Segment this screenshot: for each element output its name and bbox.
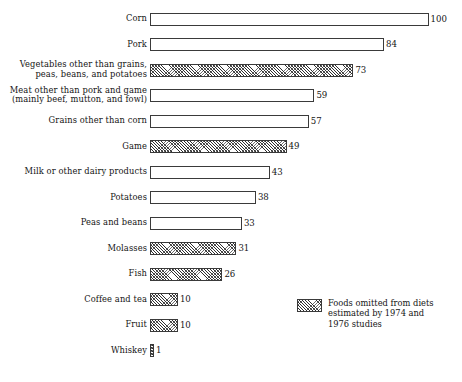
bar-container: 43 xyxy=(150,161,283,183)
bar-container: 31 xyxy=(150,238,249,260)
bar-category-label: Fish xyxy=(0,269,147,279)
bar-value-label: 100 xyxy=(431,13,447,26)
bar-shape xyxy=(150,89,314,102)
bar-value-label: 38 xyxy=(258,191,269,204)
bar-row: Game 49 xyxy=(0,136,462,158)
bar-container: 73 xyxy=(150,59,366,81)
horizontal-bar-chart: Corn 100 Pork 84 Vegetables other than g… xyxy=(0,0,462,382)
bar-container: 100 xyxy=(150,8,447,30)
legend-label: Foods omitted from diets estimated by 19… xyxy=(328,298,434,329)
bar-row: Grains other than corn 57 xyxy=(0,110,462,132)
bar-value-label: 59 xyxy=(316,89,327,102)
bar-container: 57 xyxy=(150,110,322,132)
bar-shape-omitted xyxy=(150,140,287,153)
bar-row: Pork 84 xyxy=(0,34,462,56)
bar-shape xyxy=(150,217,242,230)
bar-shape-omitted xyxy=(150,242,236,255)
bar-container: 59 xyxy=(150,85,327,107)
bar-value-label: 1 xyxy=(156,344,161,357)
bar-container: 10 xyxy=(150,314,191,336)
bar-row: Molasses 31 xyxy=(0,238,462,260)
bar-container: 49 xyxy=(150,136,299,158)
bar-shape-omitted xyxy=(150,344,154,357)
bar-row: Corn 100 xyxy=(0,8,462,30)
bar-value-label: 49 xyxy=(289,140,300,153)
chart-legend: Foods omitted from diets estimated by 19… xyxy=(297,299,434,329)
bar-container: 84 xyxy=(150,34,397,56)
bar-value-label: 10 xyxy=(180,293,191,306)
bar-shape xyxy=(150,191,256,204)
bar-row: Meat other than pork and game (mainly be… xyxy=(0,85,462,107)
bar-category-label: Vegetables other than grains, peas, bean… xyxy=(0,60,147,79)
bar-category-label: Grains other than corn xyxy=(0,116,147,126)
bar-value-label: 10 xyxy=(180,319,191,332)
bar-value-label: 57 xyxy=(311,115,322,128)
bar-value-label: 73 xyxy=(355,64,366,77)
bar-shape xyxy=(150,13,429,26)
bar-shape xyxy=(150,38,384,51)
bar-row: Potatoes 38 xyxy=(0,187,462,209)
bar-category-label: Game xyxy=(0,142,147,152)
bar-category-label: Whiskey xyxy=(0,346,147,356)
legend-swatch-omitted-foods xyxy=(297,299,322,312)
bar-container: 33 xyxy=(150,212,255,234)
bar-shape xyxy=(150,115,309,128)
bar-row: Whiskey 1 xyxy=(0,340,462,362)
bar-shape-omitted xyxy=(150,64,353,77)
bar-value-label: 84 xyxy=(386,38,397,51)
bar-category-label: Pork xyxy=(0,40,147,50)
bar-category-label: Peas and beans xyxy=(0,218,147,228)
bar-category-label: Meat other than pork and game (mainly be… xyxy=(0,86,147,105)
bar-shape xyxy=(150,166,270,179)
bar-value-label: 26 xyxy=(224,268,235,281)
bar-value-label: 31 xyxy=(238,242,249,255)
bar-row: Peas and beans 33 xyxy=(0,212,462,234)
bar-row: Fish 26 xyxy=(0,263,462,285)
bar-row: Milk or other dairy products 43 xyxy=(0,161,462,183)
bar-category-label: Molasses xyxy=(0,244,147,254)
bar-shape-omitted xyxy=(150,293,178,306)
bar-category-label: Fruit xyxy=(0,320,147,330)
bar-value-label: 43 xyxy=(272,166,283,179)
bar-container: 26 xyxy=(150,263,235,285)
bar-row: Vegetables other than grains, peas, bean… xyxy=(0,59,462,81)
bar-container: 38 xyxy=(150,187,269,209)
bar-shape-omitted xyxy=(150,319,178,332)
bar-value-label: 33 xyxy=(244,217,255,230)
bar-category-label: Milk or other dairy products xyxy=(0,167,147,177)
bar-container: 1 xyxy=(150,340,161,362)
bar-container: 10 xyxy=(150,289,191,311)
bar-shape-omitted xyxy=(150,268,222,281)
bar-category-label: Coffee and tea xyxy=(0,295,147,305)
bar-category-label: Corn xyxy=(0,14,147,24)
bar-category-label: Potatoes xyxy=(0,193,147,203)
